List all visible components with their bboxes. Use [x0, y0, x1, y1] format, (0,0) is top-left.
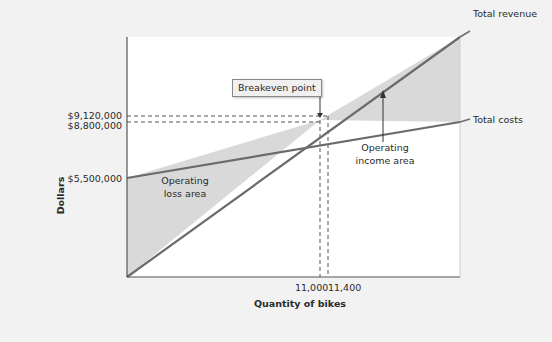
y-tick-8800000: $8,800,000: [52, 121, 122, 131]
operating-loss-label-line2: loss area: [150, 189, 220, 199]
x-tick-11000: 11,000: [295, 283, 328, 293]
costs-label-leader: [460, 119, 470, 122]
breakeven-chart: Dollars $9,120,000 $8,800,000 $5,500,000…: [0, 0, 552, 342]
operating-loss-label-line1: Operating: [150, 176, 220, 186]
y-tick-5500000: $5,500,000: [52, 174, 122, 184]
breakeven-callout: Breakeven point: [232, 79, 322, 97]
total-costs-label: Total costs: [473, 115, 523, 125]
operating-income-label-line2: income area: [345, 156, 425, 166]
chart-canvas: [0, 0, 552, 342]
total-revenue-label: Total revenue: [473, 9, 537, 19]
x-axis-label: Quantity of bikes: [230, 299, 370, 309]
operating-income-label-line1: Operating: [345, 143, 425, 153]
x-tick-11400: 11,400: [328, 283, 361, 293]
revenue-label-leader: [460, 31, 470, 37]
